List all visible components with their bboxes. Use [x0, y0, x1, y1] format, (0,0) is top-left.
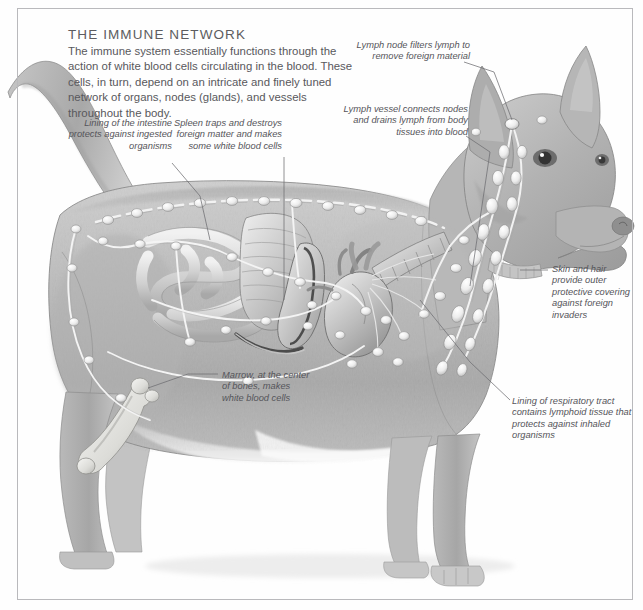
front-leg-far [387, 436, 432, 566]
callout-lymph-vessel: Lymph vessel connects nodes and drains l… [332, 104, 468, 138]
eye-far-glint [599, 157, 602, 160]
eye-near-pupil [539, 152, 552, 165]
callout-lymph-node: Lymph node filters lymph to remove forei… [348, 40, 470, 63]
eye-near-glint [540, 153, 544, 157]
callout-intestine: Lining of the intestine protects against… [68, 118, 172, 152]
callout-spleen: Spleen traps and destroys foreign matter… [160, 118, 282, 152]
front-leg-near [433, 434, 480, 570]
callout-skin: Skin and hair provide outer protective c… [552, 264, 634, 321]
intro-paragraph: The immune system essentially functions … [68, 44, 360, 121]
page-root: THE IMMUNE NETWORK The immune system ess… [0, 0, 643, 610]
nose [612, 217, 634, 235]
page-title: THE IMMUNE NETWORK [68, 27, 246, 42]
front-paw-near [431, 566, 484, 586]
callout-respiratory: Lining of respiratory tract contains lym… [512, 396, 634, 442]
hind-paw [60, 552, 114, 569]
front-paw-far [384, 562, 429, 578]
callout-marrow: Marrow, at the center of bones, makes wh… [222, 370, 310, 404]
